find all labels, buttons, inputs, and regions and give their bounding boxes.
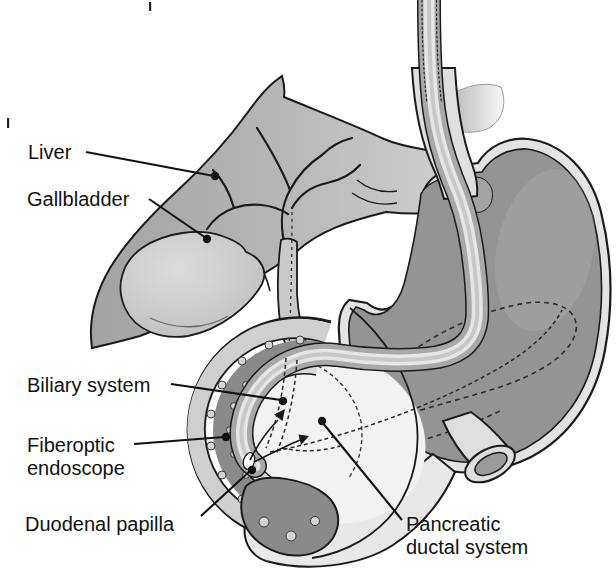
- label-duodenal-papilla: Duodenal papilla: [25, 513, 175, 535]
- label-pancreatic-ductal-line1: Pancreatic: [406, 513, 501, 535]
- leader-line-liver: [86, 152, 214, 176]
- label-biliary-system: Biliary system: [27, 374, 150, 396]
- label-gallbladder: Gallbladder: [27, 188, 130, 210]
- crop-marks: [7, 2, 151, 128]
- anatomy-illustration: Liver Gallbladder Biliary system Fiberop…: [0, 0, 616, 575]
- liver-right-tip: [456, 84, 504, 132]
- label-liver: Liver: [28, 141, 72, 163]
- label-fiberoptic-endoscope-line1: Fiberoptic: [27, 434, 115, 456]
- ercp-anatomy-figure: Liver Gallbladder Biliary system Fiberop…: [0, 0, 616, 575]
- label-pancreatic-ductal-line2: ductal system: [406, 536, 528, 558]
- label-fiberoptic-endoscope-line2: endoscope: [27, 457, 125, 479]
